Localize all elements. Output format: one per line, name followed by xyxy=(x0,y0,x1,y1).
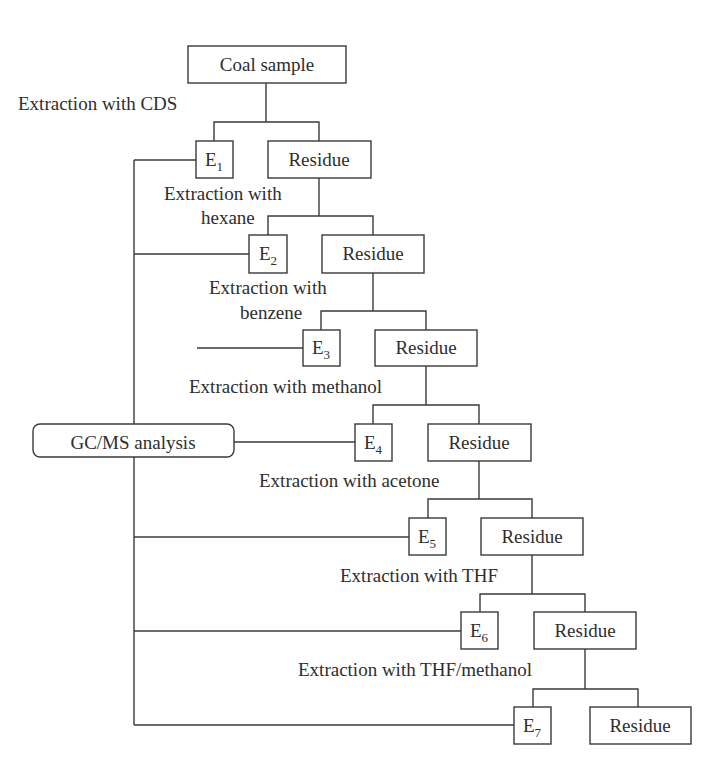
step-4-label: Extraction with methanol xyxy=(189,376,382,398)
e4-label: E4 xyxy=(364,433,382,452)
residue-1-label: Residue xyxy=(288,150,349,169)
step-5-label: Extraction with acetone xyxy=(259,470,439,492)
e7-label: E7 xyxy=(523,716,541,735)
step-3-label-line2: benzene xyxy=(240,302,302,324)
e6-label: E6 xyxy=(470,621,488,640)
step-2-label-line1: Extraction with xyxy=(164,183,282,205)
e5-label: E5 xyxy=(418,527,436,546)
e2-label: E2 xyxy=(259,244,277,263)
residue-2-label: Residue xyxy=(342,244,403,263)
residue-5-label: Residue xyxy=(501,527,562,546)
step-7-label: Extraction with THF/methanol xyxy=(298,659,532,681)
gcms-analysis-label: GC/MS analysis xyxy=(70,433,195,452)
residue-7-label: Residue xyxy=(609,716,670,735)
residue-6-label: Residue xyxy=(554,621,615,640)
e1-label: E1 xyxy=(205,150,223,169)
e3-label: E3 xyxy=(312,338,330,357)
step-1-label: Extraction with CDS xyxy=(18,93,177,115)
step-6-label: Extraction with THF xyxy=(340,565,498,587)
residue-3-label: Residue xyxy=(395,338,456,357)
step-2-label-line2: hexane xyxy=(201,207,255,229)
step-3-label-line1: Extraction with xyxy=(209,277,327,299)
residue-4-label: Residue xyxy=(448,433,509,452)
coal-sample-label: Coal sample xyxy=(220,55,314,74)
